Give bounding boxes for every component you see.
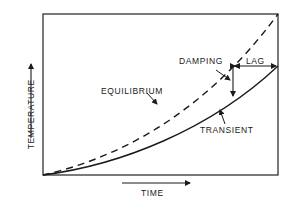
lag-arrow-left-head [233,63,240,69]
transient-curve [43,66,278,175]
transient-label: TRANSIENT [200,126,254,135]
damping-leader [216,70,230,80]
lag-label: LAG [246,57,265,66]
equilibrium-label: EQUILIBRIUM [101,87,163,96]
transient-leader [220,110,225,124]
x-axis-label: TIME [141,189,164,198]
damping-label: DAMPING [179,57,223,66]
temperature-time-diagram [0,0,294,204]
y-axis-label: TEMPERATURE [27,74,36,154]
